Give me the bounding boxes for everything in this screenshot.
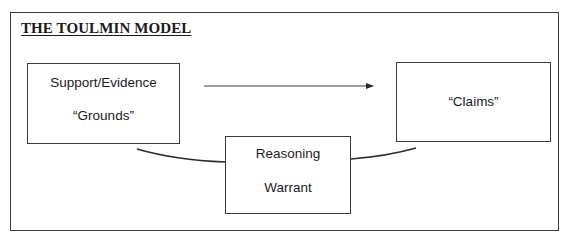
warrant-sublabel: Warrant [226, 180, 350, 195]
grounds-label: Support/Evidence [28, 75, 179, 90]
diagram-title: THE TOULMIN MODEL [21, 20, 191, 37]
grounds-box: Support/Evidence “Grounds” [27, 63, 180, 144]
claims-box: “Claims” [396, 62, 551, 142]
warrant-box: Reasoning Warrant [225, 136, 351, 214]
claims-label: “Claims” [397, 94, 550, 109]
warrant-label: Reasoning [226, 146, 350, 161]
grounds-sublabel: “Grounds” [28, 108, 179, 123]
